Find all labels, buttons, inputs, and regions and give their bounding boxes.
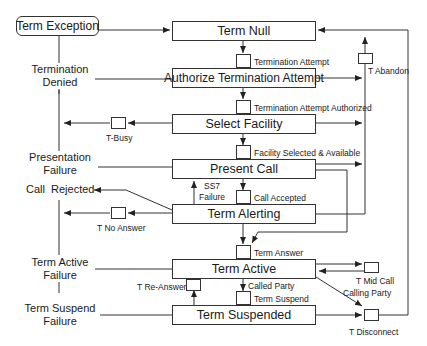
state-term-active: Term Active <box>172 259 316 279</box>
outcome-term-suspend-failure: Term Suspend Failure <box>20 302 100 328</box>
outcome-presentation-failure-line2: Failure <box>22 164 98 177</box>
outcome-presentation-failure: Presentation Failure <box>22 151 98 177</box>
outcome-term-suspend-failure-line2: Failure <box>20 315 100 328</box>
outcome-termination-denied-line2: Denied <box>25 76 95 89</box>
outcome-term-active-failure-line1: Term Active <box>25 256 95 269</box>
label-failure: Failure <box>199 192 225 202</box>
state-term-null: Term Null <box>172 21 316 41</box>
label-term-answer: Term Answer <box>254 248 303 258</box>
dp-t-abandon-box <box>358 53 373 64</box>
label-facility-selected: Facility Selected & Available <box>254 148 360 158</box>
state-authorize-termination-attempt: Authorize Termination Attempt <box>172 68 316 88</box>
outcome-call-rejected: Call Rejected <box>26 183 92 196</box>
label-t-mid-call: T Mid Call <box>356 276 394 286</box>
state-term-alerting: Term Alerting <box>172 204 316 224</box>
dp-termination-attempt-authorized-box <box>236 100 251 114</box>
outcome-term-active-failure: Term Active Failure <box>25 256 95 282</box>
label-termination-attempt: Termination Attempt <box>254 57 329 67</box>
dp-t-busy-box <box>111 117 126 129</box>
dp-termination-attempt-box <box>236 54 251 68</box>
dp-facility-selected-box <box>236 145 251 159</box>
dp-term-suspend-box <box>236 291 251 305</box>
dp-term-answer-box <box>236 245 251 259</box>
outcome-termination-denied: Termination Denied <box>25 63 95 89</box>
outcome-presentation-failure-line1: Presentation <box>22 151 98 164</box>
label-calling-party: Calling Party <box>343 288 391 298</box>
label-ss7: SS7 <box>204 181 220 191</box>
label-t-abandon: T Abandon <box>368 66 409 76</box>
dp-call-accepted-box <box>236 190 251 204</box>
dp-t-no-answer-box <box>111 207 126 219</box>
dp-t-disconnect-box <box>364 309 379 321</box>
label-term-suspend: Term Suspend <box>254 294 309 304</box>
label-t-re-answer: T Re-Answer <box>137 282 186 292</box>
label-termination-attempt-authorized: Termination Attempt Authorized <box>254 103 372 113</box>
dp-t-mid-call-box <box>364 262 379 273</box>
outcome-termination-denied-line1: Termination <box>25 63 95 76</box>
dp-t-re-answer-box <box>186 279 201 291</box>
label-t-no-answer: T No Answer <box>97 223 146 233</box>
state-term-exception: Term Exception <box>16 16 99 36</box>
label-t-busy: T-Busy <box>106 133 132 143</box>
outcome-term-active-failure-line2: Failure <box>25 269 95 282</box>
label-called-party: Called Party <box>248 281 294 291</box>
label-t-disconnect: T Disconnect <box>349 327 398 337</box>
state-term-suspended: Term Suspended <box>172 305 316 325</box>
label-call-accepted: Call Accepted <box>254 193 306 203</box>
state-select-facility: Select Facility <box>172 114 316 134</box>
outcome-term-suspend-failure-line1: Term Suspend <box>20 302 100 315</box>
state-present-call: Present Call <box>172 159 316 179</box>
